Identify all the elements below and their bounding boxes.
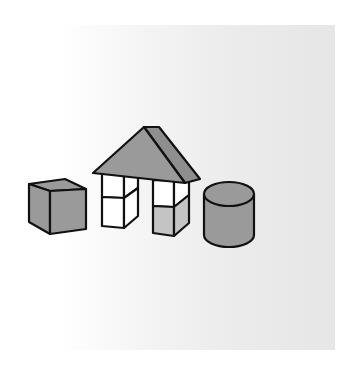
cube-left-face <box>29 184 50 234</box>
cube <box>29 179 86 234</box>
right-pillar-front-lower <box>153 206 174 236</box>
right-pillar <box>153 180 189 236</box>
cylinder-top <box>204 182 254 206</box>
cylinder <box>204 182 254 247</box>
cube-front-face <box>50 189 86 234</box>
left-pillar <box>102 174 138 228</box>
blocks-scene <box>0 0 358 372</box>
left-pillar-front-lower <box>102 197 124 228</box>
left-pillar-front-upper <box>102 174 124 198</box>
roof-prism <box>93 127 200 183</box>
right-pillar-front-upper <box>153 180 174 207</box>
